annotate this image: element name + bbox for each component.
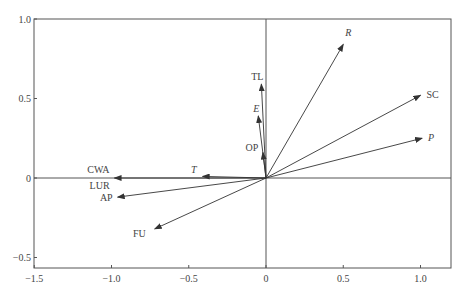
vector-arrow-ap (118, 178, 266, 197)
x-tick-label: 0.5 (337, 273, 350, 284)
vector-arrow-fu (155, 178, 266, 229)
biplot-chart: −1.5−1.0−0.500.51.0 1.00.50−0.5 RSCPTLEO… (0, 0, 464, 298)
vector-label-lur: LUR (90, 180, 110, 191)
y-tick-label: 1.0 (19, 14, 32, 25)
vector-label-e: E (252, 103, 259, 114)
vector-arrows (115, 44, 422, 228)
vector-arrow-r (266, 44, 343, 178)
biplot-svg: −1.5−1.0−0.500.51.0 1.00.50−0.5 RSCPTLEO… (0, 0, 464, 298)
vector-label-sc: SC (427, 89, 440, 100)
x-tick-label: 0 (264, 273, 269, 284)
x-tick-label: −1.5 (25, 273, 43, 284)
vector-labels: RSCPTLEOPTCWALURAPFU (87, 27, 439, 238)
reference-lines (34, 19, 451, 268)
x-tick-label: −1.0 (102, 273, 120, 284)
vector-label-p: P (427, 132, 434, 143)
vector-arrow-p (266, 138, 422, 178)
y-axis-ticks: 1.00.50−0.5 (13, 14, 37, 264)
vector-label-tl: TL (251, 71, 263, 82)
y-tick-label: −0.5 (13, 252, 31, 263)
vector-arrow-sc (266, 95, 421, 178)
x-tick-label: 1.0 (414, 273, 427, 284)
vector-label-cwa: CWA (87, 164, 110, 175)
vector-label-fu: FU (133, 228, 147, 239)
x-tick-label: −0.5 (180, 273, 198, 284)
plot-frame (34, 19, 451, 268)
y-tick-label: 0 (26, 173, 31, 184)
vector-label-t: T (191, 164, 198, 175)
vector-label-r: R (344, 27, 351, 38)
vector-label-op: OP (246, 142, 259, 153)
y-tick-label: 0.5 (19, 93, 32, 104)
vector-arrow-tl (261, 84, 266, 178)
vector-label-ap: AP (100, 192, 113, 203)
